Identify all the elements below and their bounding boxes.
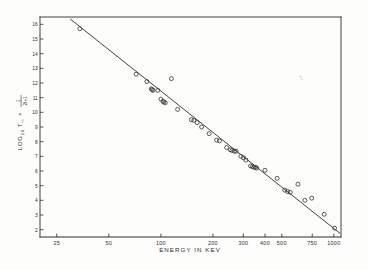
- y-tick-label: 15: [32, 37, 38, 42]
- x-axis-ticks: [57, 234, 334, 237]
- y-tick-label: 16: [32, 22, 38, 27]
- y-tick-label: 2: [35, 228, 38, 233]
- data-point: [134, 72, 138, 76]
- data-point: [303, 198, 307, 202]
- regression-line: [70, 19, 340, 233]
- fit-line: [70, 19, 340, 233]
- x-tick-label: 1000: [327, 240, 340, 246]
- data-point: [217, 139, 221, 143]
- y-axis-ticks: [40, 24, 43, 229]
- y-tick-label: 7: [35, 154, 38, 159]
- y-tick-label: 13: [32, 66, 38, 71]
- data-point: [215, 138, 219, 142]
- y-tick-label: 10: [32, 110, 38, 115]
- y-tick-label: 9: [35, 125, 38, 130]
- y-label-fraction-denominator: 2I+1: [23, 96, 28, 106]
- data-point: [169, 77, 173, 81]
- data-point: [275, 176, 279, 180]
- data-point: [176, 107, 180, 111]
- x-tick-label: 750: [307, 240, 317, 246]
- y-axis-label: LOG10 T½ × 1 2I+1: [16, 95, 28, 150]
- x-tick-label: 25: [53, 240, 60, 246]
- figure-panel: 25501002003004005007501000 2345678910111…: [0, 0, 368, 269]
- y-tick-label: 3: [35, 213, 38, 218]
- x-tick-label: 400: [260, 240, 270, 246]
- y-label-fraction-numerator: 1: [16, 99, 21, 102]
- x-tick-label: 300: [238, 240, 248, 246]
- data-point: [207, 132, 211, 136]
- y-tick-label: 4: [35, 198, 38, 203]
- y-tick-label: 8: [35, 140, 38, 145]
- y-label-prefix: LOG: [17, 135, 23, 150]
- data-point: [322, 212, 326, 216]
- axes-frame: [40, 17, 341, 237]
- scatter-chart: 25501002003004005007501000 2345678910111…: [0, 0, 368, 269]
- y-tick-label: 14: [32, 52, 38, 57]
- y-tick-label: 6: [35, 169, 38, 174]
- data-point: [296, 182, 300, 186]
- data-point: [195, 121, 199, 125]
- svg-text:LOG10 T½ ×: LOG10 T½ ×: [17, 112, 25, 150]
- data-point: [200, 125, 204, 129]
- data-point: [263, 168, 267, 172]
- x-tick-label: 50: [106, 240, 113, 246]
- y-label-times: ×: [17, 112, 23, 116]
- data-point: [225, 146, 229, 150]
- y-label-fraction: 1 2I+1: [16, 95, 28, 107]
- data-point: [78, 27, 82, 31]
- y-tick-label: 11: [33, 96, 38, 101]
- y-tick-label: 5: [35, 184, 38, 189]
- y-tick-label: 12: [32, 81, 38, 86]
- x-tick-label: 500: [277, 240, 287, 246]
- x-axis-label: ENERGY IN KEV: [159, 246, 221, 253]
- y-axis-tick-labels: 2345678910111213141516: [32, 22, 38, 232]
- data-point: [310, 196, 314, 200]
